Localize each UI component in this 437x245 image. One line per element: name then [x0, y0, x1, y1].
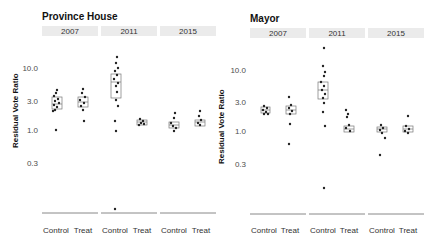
jitter-points	[262, 47, 410, 189]
panel-mayor: Mayor 2007 2011 2015 10.0 3.0 1.0 0.3 Re…	[217, 13, 424, 235]
y-tick: 10.0	[22, 64, 38, 73]
jitter-points	[52, 56, 202, 210]
x-tick: Control	[369, 226, 395, 235]
boxplot	[261, 82, 413, 132]
x-tick: Treat	[192, 226, 211, 235]
boxplot	[52, 74, 205, 128]
x-tick: Treat	[340, 226, 359, 235]
x-tick: Treat	[281, 226, 300, 235]
panel-title: Province House	[42, 11, 118, 22]
y-tick: 1.0	[27, 126, 39, 135]
panel-province-house: Province House 2007 2011 2015 10.0 3.0 1…	[11, 11, 216, 235]
x-tick: Treat	[133, 226, 152, 235]
y-tick: 1.0	[235, 127, 247, 136]
x-tick: Control	[251, 226, 277, 235]
facet-label: 2015	[387, 29, 405, 38]
x-tick: Treat	[74, 226, 93, 235]
facet-label: 2007	[61, 27, 79, 36]
y-tick: 0.3	[235, 160, 247, 169]
y-axis-label: Residual Vote Ratio	[217, 89, 226, 164]
y-tick: 10.0	[230, 66, 246, 75]
panel-title: Mayor	[250, 13, 280, 24]
facet-label: 2015	[179, 27, 197, 36]
facet-label: 2011	[328, 29, 346, 38]
chart-canvas: Province House 2007 2011 2015 10.0 3.0 1…	[0, 0, 437, 245]
x-tick: Control	[310, 226, 336, 235]
x-tick: Control	[161, 226, 187, 235]
x-tick: Control	[102, 226, 128, 235]
y-tick: 3.0	[235, 98, 247, 107]
facet-label: 2007	[269, 29, 287, 38]
x-tick: Treat	[399, 226, 418, 235]
facet-label: 2011	[120, 27, 138, 36]
y-tick: 3.0	[27, 97, 39, 106]
y-tick: 0.3	[27, 159, 39, 168]
y-axis-label: Residual Vote Ratio	[11, 73, 20, 148]
x-tick: Control	[43, 226, 69, 235]
